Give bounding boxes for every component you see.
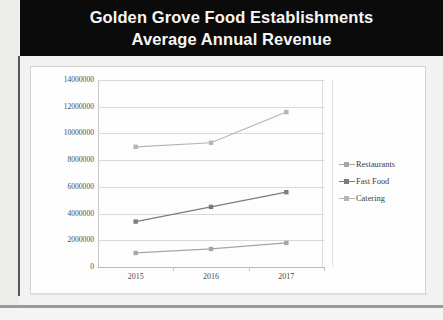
gridline (98, 107, 324, 108)
legend-label: Restaurants (356, 160, 395, 169)
y-axis-tick-label: 10000000 (30, 128, 94, 138)
legend-item-catering[interactable]: Catering (339, 190, 425, 207)
legend-item-restaurants[interactable]: Restaurants (339, 156, 425, 173)
legend-label: Catering (356, 194, 385, 203)
legend-key-icon (339, 177, 355, 186)
y-axis-tick-text: 0 (32, 262, 94, 271)
slide-below-area (0, 308, 443, 320)
chart-panel-shadow (30, 293, 427, 295)
y-axis-tick-text: 8000000 (32, 155, 94, 164)
gridline (98, 133, 324, 134)
y-axis-tick-text: 2000000 (32, 235, 94, 244)
legend-item-fast-food[interactable]: Fast Food (339, 173, 425, 190)
chart-title-line-2: Average Annual Revenue (132, 28, 332, 50)
legend-key-icon (339, 160, 355, 169)
legend-key-marker (344, 179, 349, 184)
gridline (98, 160, 324, 161)
x-axis-tick-label: 2015 (112, 272, 160, 281)
legend-divider (332, 80, 333, 267)
gridline (98, 214, 324, 215)
x-axis-tick-mark (249, 267, 250, 271)
slide-left-margin (0, 0, 18, 320)
x-axis-tick-mark (324, 267, 325, 271)
y-axis-tick-label: 14000000 (30, 75, 94, 85)
y-axis-tick-text: 10000000 (32, 128, 94, 137)
gridline (98, 80, 324, 81)
y-axis-tick-label: 4000000 (30, 209, 94, 219)
gridline (98, 267, 324, 268)
chart-title-banner: Golden Grove Food Establishments Average… (20, 0, 443, 56)
x-axis-tick-mark (173, 267, 174, 271)
x-axis-tick-label: 2016 (187, 272, 235, 281)
plot-area (98, 80, 323, 267)
gridline (98, 187, 324, 188)
x-axis-tick-label: 2017 (262, 272, 310, 281)
chart-legend: RestaurantsFast FoodCatering (339, 156, 425, 207)
y-axis-tick-text: 4000000 (32, 209, 94, 218)
y-axis-tick-text: 12000000 (32, 102, 94, 111)
y-axis-tick-text: 14000000 (32, 75, 94, 84)
y-axis-tick-label: 0 (30, 262, 94, 272)
y-axis-tick-label: 6000000 (30, 182, 94, 192)
gridline (98, 240, 324, 241)
y-axis-tick-label: 2000000 (30, 235, 94, 245)
legend-key-marker (344, 162, 349, 167)
slide-canvas: Golden Grove Food Establishments Average… (0, 0, 443, 320)
y-axis-tick-label: 12000000 (30, 102, 94, 112)
chart-title-line-1: Golden Grove Food Establishments (90, 6, 374, 28)
legend-key-icon (339, 194, 355, 203)
slide-edge-line (18, 56, 20, 296)
y-axis-tick-label: 8000000 (30, 155, 94, 165)
y-axis-tick-text: 6000000 (32, 182, 94, 191)
legend-label: Fast Food (356, 177, 389, 186)
legend-key-marker (344, 196, 349, 201)
